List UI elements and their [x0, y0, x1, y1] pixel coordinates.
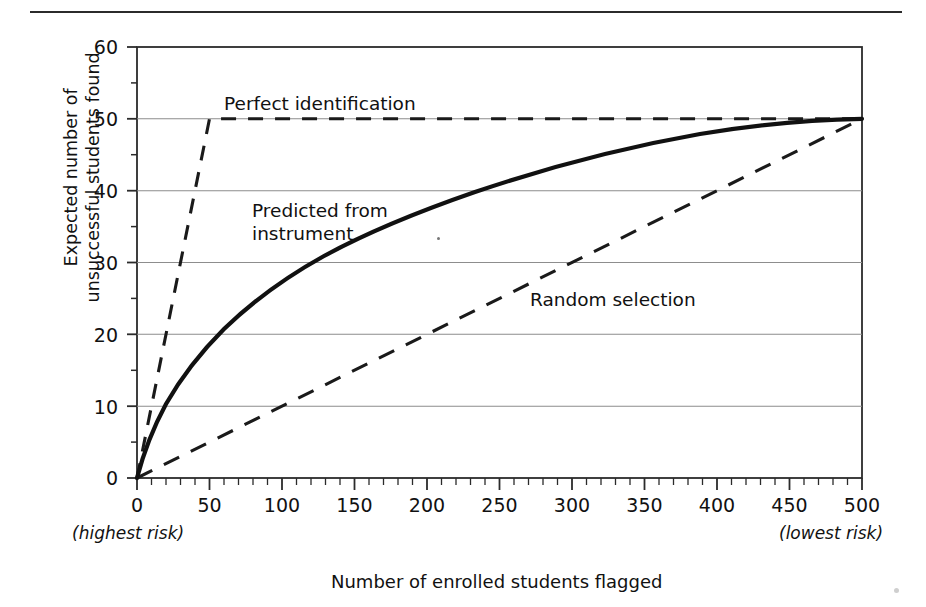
scan-speck — [437, 237, 440, 240]
x-tick-label-400: 400 — [687, 494, 747, 516]
y-axis-ticks — [127, 47, 137, 478]
y-tick-label-10: 10 — [78, 396, 118, 418]
y-tick-label-0: 0 — [78, 467, 118, 489]
x-tick-label-100: 100 — [252, 494, 312, 516]
figure-canvas: 60 50 40 30 20 10 0 0 50 100 150 200 250… — [0, 0, 926, 607]
x-tick-label-350: 350 — [615, 494, 675, 516]
x-axis-title: Number of enrolled students flagged — [331, 571, 662, 592]
annotation-predicted-line1: Predicted from — [252, 199, 388, 222]
annotation-predicted-line2: instrument — [252, 222, 388, 245]
x-tick-label-200: 200 — [397, 494, 457, 516]
x-tick-label-250: 250 — [470, 494, 530, 516]
x-tick-label-500: 500 — [832, 494, 892, 516]
x-tick-label-150: 150 — [325, 494, 385, 516]
series-random-selection — [137, 119, 862, 478]
scan-speck-corner — [894, 588, 899, 593]
x-tick-label-450: 450 — [760, 494, 820, 516]
x-axis-ticks — [137, 478, 862, 490]
y-axis-title: Expected number of unsuccessful students… — [60, 27, 105, 327]
x-tick-label-300: 300 — [542, 494, 602, 516]
y-axis-title-line1: Expected number of — [60, 27, 82, 327]
annotation-predicted-from-instrument: Predicted from instrument — [252, 199, 388, 245]
x-tick-label-0: 0 — [107, 494, 167, 516]
axis-note-lowest-risk: (lowest risk) — [779, 523, 883, 543]
axis-note-highest-risk: (highest risk) — [72, 523, 184, 543]
y-axis-title-line2: unsuccessful students found — [82, 27, 104, 327]
gridlines-horizontal — [137, 119, 862, 406]
annotation-perfect-identification: Perfect identification — [224, 92, 416, 115]
annotation-random-selection: Random selection — [530, 288, 696, 311]
x-tick-label-50: 50 — [180, 494, 240, 516]
